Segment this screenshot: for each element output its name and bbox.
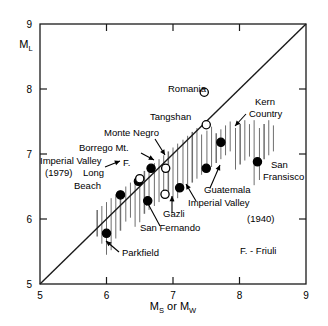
data-point: [102, 229, 110, 237]
imperial-valley-1979-yr: (1979): [45, 167, 72, 178]
x-tick-label-8: 8: [237, 290, 243, 301]
data-point: [217, 138, 225, 146]
kern-country-line1: Kern: [255, 96, 275, 107]
data-point: [202, 121, 210, 129]
f-label: F.: [123, 157, 130, 168]
imperial-valley-1940-yr: (1940): [247, 213, 274, 224]
y-axis-title: ML: [19, 38, 32, 53]
plot-canvas: RomaniaTangshanKernCountryMonte NegroBor…: [0, 0, 328, 326]
gazli-label: Gazli: [163, 208, 185, 219]
x-tick-label-5: 5: [37, 290, 43, 301]
imperial-valley-1940: Imperial Valley: [188, 197, 250, 208]
romania-label: Romania: [168, 83, 207, 94]
data-point: [144, 197, 152, 205]
tangshan-label: Tangshan: [150, 111, 191, 122]
gazli-leader-arrowhead: [170, 196, 175, 201]
monte-negro-label: Monte Negro: [104, 127, 159, 138]
data-point: [162, 164, 170, 172]
beach-label: Beach: [74, 180, 101, 191]
y-tick-label-9: 9: [26, 19, 32, 30]
san-fransisco-line1: San: [271, 159, 288, 170]
guatemala-label: Guatemala: [204, 184, 251, 195]
point-labels: RomaniaTangshanKernCountryMonte NegroBor…: [40, 83, 304, 258]
x-axis-title: MS or MW: [150, 300, 197, 315]
data-point: [202, 164, 210, 172]
friuli-note: F. - Friuli: [240, 245, 276, 256]
data-point: [253, 158, 261, 166]
long-label: Long: [83, 167, 104, 178]
data-point: [147, 164, 155, 172]
data-point: [176, 184, 184, 192]
borrego-mt-label: Borrego Mt.: [79, 142, 129, 153]
y-tick-label-8: 8: [26, 84, 32, 95]
data-point: [136, 175, 144, 183]
y-tick-label-7: 7: [26, 149, 32, 160]
x-tick-label-9: 9: [303, 290, 309, 301]
parkfield-label: Parkfield: [122, 247, 159, 258]
data-point: [161, 190, 169, 198]
data-point: [116, 191, 124, 199]
y-tick-label-6: 6: [26, 214, 32, 225]
imperial-valley-1979: Imperial Valley: [40, 155, 102, 166]
scatter-plot-figure: RomaniaTangshanKernCountryMonte NegroBor…: [0, 0, 328, 326]
kern-country-line2: Country: [249, 108, 283, 119]
y-tick-label-5: 5: [26, 279, 32, 290]
x-tick-label-6: 6: [104, 290, 110, 301]
san-fransisco-line2: Fransisco: [263, 171, 304, 182]
san-fernando-label: San Fernando: [140, 222, 200, 233]
